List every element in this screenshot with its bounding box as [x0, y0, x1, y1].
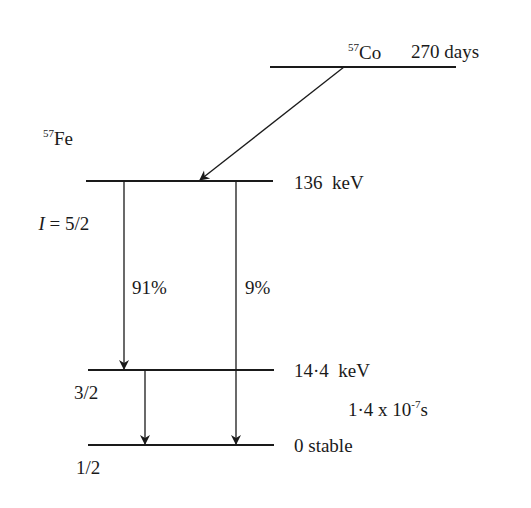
- electron-capture-arrow: [200, 67, 344, 180]
- level-14kev-lifetime: 1·4 x 10-7s: [348, 399, 428, 419]
- level-136kev-energy: 136 keV: [294, 173, 364, 192]
- level-ground-spin: 1/2: [76, 458, 100, 477]
- level-136kev-spin: I = 5/2: [29, 195, 89, 233]
- daughter-mass-number: 57: [43, 127, 54, 139]
- level-14kev-spin: 3/2: [74, 383, 98, 402]
- parent-nuclide-label: 57Co: [348, 42, 381, 62]
- level-ground-energy: 0 stable: [294, 436, 353, 455]
- lifetime-base: 1·4 x 10: [348, 399, 411, 420]
- branch-91-percent: 91%: [132, 278, 167, 297]
- decay-scheme-lines: [0, 0, 531, 508]
- parent-mass-number: 57: [348, 41, 359, 53]
- parent-half-life: 270 days: [411, 42, 479, 61]
- lifetime-exponent: -7: [411, 398, 420, 410]
- parent-element: Co: [359, 42, 381, 63]
- spin-value: = 5/2: [45, 213, 90, 234]
- daughter-nuclide-label: 57Fe: [43, 128, 73, 148]
- lifetime-unit: s: [421, 399, 428, 420]
- level-14kev-energy: 14·4 keV: [294, 361, 370, 380]
- daughter-element: Fe: [54, 128, 73, 149]
- branch-9-percent: 9%: [245, 278, 270, 297]
